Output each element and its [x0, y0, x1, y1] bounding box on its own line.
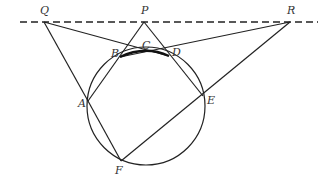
label-c: C: [142, 39, 151, 52]
label-e: E: [206, 94, 215, 107]
segment-q-a: [44, 22, 88, 101]
label-d: D: [171, 46, 181, 59]
label-a: A: [77, 97, 86, 110]
label-p: P: [140, 4, 149, 17]
label-f: F: [114, 164, 123, 177]
label-q: Q: [40, 4, 49, 17]
segment-p-a: [88, 22, 144, 101]
label-r: R: [286, 4, 295, 17]
label-b: B: [110, 47, 119, 60]
segment-p-e: [144, 22, 203, 96]
geometry-diagram: Q P R B C D A E F: [0, 0, 332, 182]
